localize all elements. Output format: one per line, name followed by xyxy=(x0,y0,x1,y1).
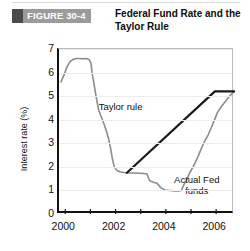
y-tick-label: 1 xyxy=(32,184,54,194)
gridline xyxy=(59,73,232,74)
gridline xyxy=(59,49,232,50)
badge-accent-block xyxy=(12,9,23,23)
series-line xyxy=(127,91,234,172)
y-tick-label: 5 xyxy=(32,90,54,100)
header-divider xyxy=(12,2,240,3)
y-tick-label: 6 xyxy=(32,67,54,77)
y-tick-label: 7 xyxy=(32,43,54,53)
x-tick-label: 2004 xyxy=(144,220,184,232)
gridline xyxy=(59,167,232,168)
gridline xyxy=(59,143,232,144)
figure-header: FIGURE 30-4 Federal Fund Rate and the Ta… xyxy=(12,9,240,27)
plot-area: Taylor rule Actual Fedfunds xyxy=(57,48,233,213)
series-line xyxy=(61,58,234,190)
gridline xyxy=(59,96,232,97)
y-axis-label: Interest rate (%) xyxy=(19,84,29,194)
figure-number-label: FIGURE 30-4 xyxy=(23,9,86,23)
gridline xyxy=(59,190,232,191)
series-label-actual-fed-funds: Actual Fedfunds xyxy=(174,174,219,196)
figure-title: Federal Fund Rate and the Taylor Rule xyxy=(115,8,243,33)
y-tick-label: 2 xyxy=(32,161,54,171)
y-tick-label: 4 xyxy=(32,114,54,124)
x-tick-label: 2000 xyxy=(43,220,83,232)
y-tick-label: 3 xyxy=(32,137,54,147)
figure-card: FIGURE 30-4 Federal Fund Rate and the Ta… xyxy=(0,0,250,251)
y-tick-label: 0 xyxy=(32,208,54,218)
series-label-line: Actual Fed xyxy=(174,174,219,185)
figure-number-badge: FIGURE 30-4 xyxy=(12,9,91,23)
chart-container: Interest rate (%) 01234567 Taylor rule A… xyxy=(0,42,250,251)
series-label-taylor-rule: Taylor rule xyxy=(99,101,143,112)
x-tick-label: 2002 xyxy=(94,220,134,232)
gridline xyxy=(59,120,232,121)
x-tick-label: 2006 xyxy=(194,220,234,232)
